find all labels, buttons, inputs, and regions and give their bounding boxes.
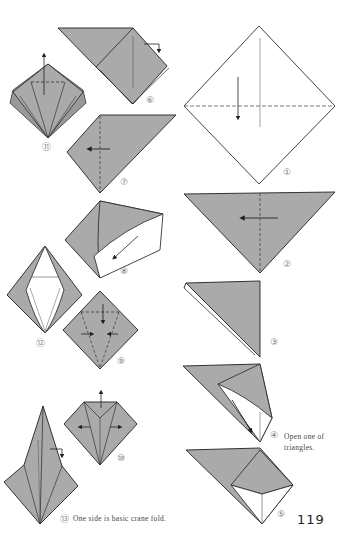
step-9-number: ⑨ (117, 356, 125, 366)
step-4-caption-line1: Open one of (284, 431, 324, 442)
step-11-number: ⑪ (42, 140, 51, 153)
step-8-number: ⑧ (120, 266, 128, 276)
step-4-number: ④ (270, 430, 278, 440)
step-3-diagram (184, 281, 260, 357)
step-4-caption-line2: triangles. (284, 442, 315, 453)
origami-diagram-page (0, 0, 352, 558)
step-2-number: ② (283, 259, 291, 269)
step-10-number: ⑩ (117, 453, 125, 463)
step-6-number: ⑥ (146, 95, 154, 105)
step-1-number: ① (283, 167, 291, 177)
step-13-caption: One side is basic crane fold. (73, 513, 166, 524)
step-7-number: ⑦ (120, 177, 128, 187)
step-5-number: ⑤ (277, 509, 285, 519)
step-2-diagram (184, 192, 335, 273)
step-12-number: ⑫ (36, 336, 45, 349)
step-13-number: ⑬ (60, 512, 69, 525)
step-10-diagram (64, 392, 137, 465)
step-4-diagram (183, 364, 272, 442)
step-3-number: ③ (270, 337, 278, 347)
step-8-diagram (65, 201, 163, 278)
step-12-diagram (7, 246, 82, 333)
step-11-diagram (10, 55, 86, 138)
page-number: 119 (297, 512, 325, 527)
step-1-diagram (184, 26, 335, 184)
